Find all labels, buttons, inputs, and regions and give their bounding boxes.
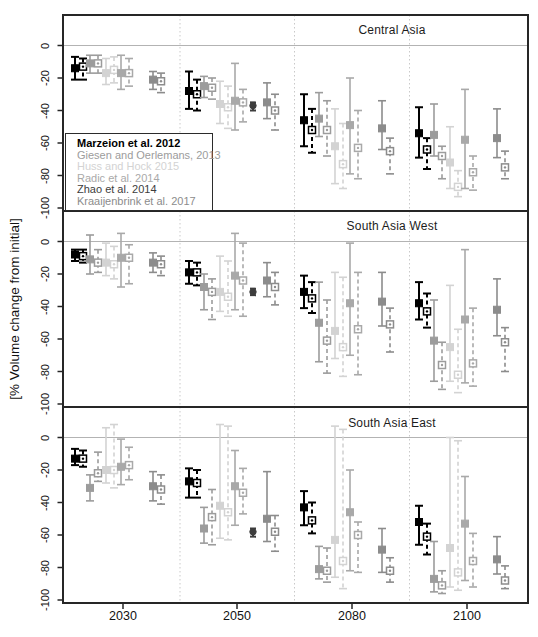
series-radic-solid: [117, 439, 469, 580]
panel-title-south-asia-east: South Asia East: [348, 416, 436, 430]
y-tick-label: -80: [39, 364, 51, 380]
series-zhao-solid: [250, 102, 256, 110]
chart-canvas: [0, 0, 538, 637]
y-tick-label: -100: [39, 393, 51, 415]
panel-south-asia-east: [58, 407, 529, 603]
x-tick-label-2100: 2100: [453, 609, 481, 623]
y-tick-label: 0: [39, 238, 51, 244]
y-tick-label: -100: [39, 589, 51, 611]
x-tick-label-2050: 2050: [223, 609, 251, 623]
y-tick-label: -60: [39, 135, 51, 151]
series-giesen-solid: [86, 475, 438, 592]
legend-box: Marzeion et al. 2012 Giesen and Oerleman…: [65, 133, 213, 211]
y-tick-label: -40: [39, 299, 51, 315]
panel-south-asia-west: [58, 211, 529, 407]
series-kraaijenbrink-solid: [149, 472, 501, 574]
y-tick-label: 0: [39, 42, 51, 48]
panel-title-south-asia-west: South Asia West: [347, 219, 438, 233]
y-tick-label: -100: [39, 197, 51, 219]
x-tick-label-2030: 2030: [109, 609, 137, 623]
series-huss-solid: [102, 425, 454, 588]
series-giesen-solid: [86, 235, 438, 381]
series-radic-solid: [117, 233, 469, 383]
series-zhao-solid: [250, 529, 256, 537]
y-tick-label: -20: [39, 462, 51, 478]
y-tick-label: -20: [39, 70, 51, 86]
y-tick-label: -40: [39, 495, 51, 511]
series-giesen-dashed: [94, 250, 446, 390]
series-zhao-solid: [250, 289, 256, 296]
glacier-volume-change-figure: [% Volume change from initial] Central A…: [0, 0, 538, 637]
y-tick-label: -60: [39, 331, 51, 347]
plot-border: [63, 15, 528, 603]
y-tick-label: 0: [39, 434, 51, 440]
y-axis-label: [% Volume change from initial]: [7, 218, 22, 400]
series-kraaijenbrink-dashed: [157, 256, 509, 371]
y-tick-label: -80: [39, 168, 51, 184]
legend-item-marzeion: Marzeion et al. 2012: [77, 138, 212, 150]
x-tick-label-2080: 2080: [338, 609, 366, 623]
panel-title-central-asia: Central Asia: [358, 23, 425, 37]
series-radic-dashed: [125, 447, 477, 587]
y-tick-label: -80: [39, 560, 51, 576]
y-tick-label: -40: [39, 103, 51, 119]
legend-item-kraaijenbrink: Kraaijenbrink et al. 2017: [77, 196, 212, 208]
y-tick-label: -20: [39, 266, 51, 282]
series-kraaijenbrink-solid: [149, 253, 501, 336]
y-tick-label: -60: [39, 527, 51, 543]
